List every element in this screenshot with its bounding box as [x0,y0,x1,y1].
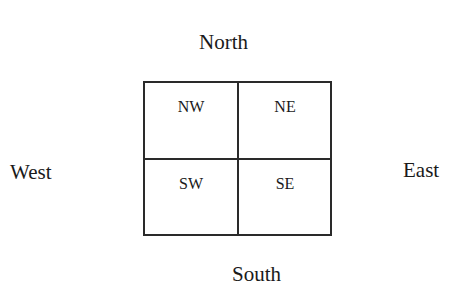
north-label: North [199,32,248,53]
west-label: West [10,162,51,183]
horizontal-divider [145,158,330,160]
quadrant-sw-label: SW [145,176,237,192]
east-label: East [403,160,439,181]
quadrant-grid: NW NE SW SE [143,81,332,236]
quadrant-ne-label: NE [239,99,331,115]
quadrant-se-label: SE [239,176,331,192]
quadrant-nw-label: NW [145,99,237,115]
south-label: South [232,264,281,284]
